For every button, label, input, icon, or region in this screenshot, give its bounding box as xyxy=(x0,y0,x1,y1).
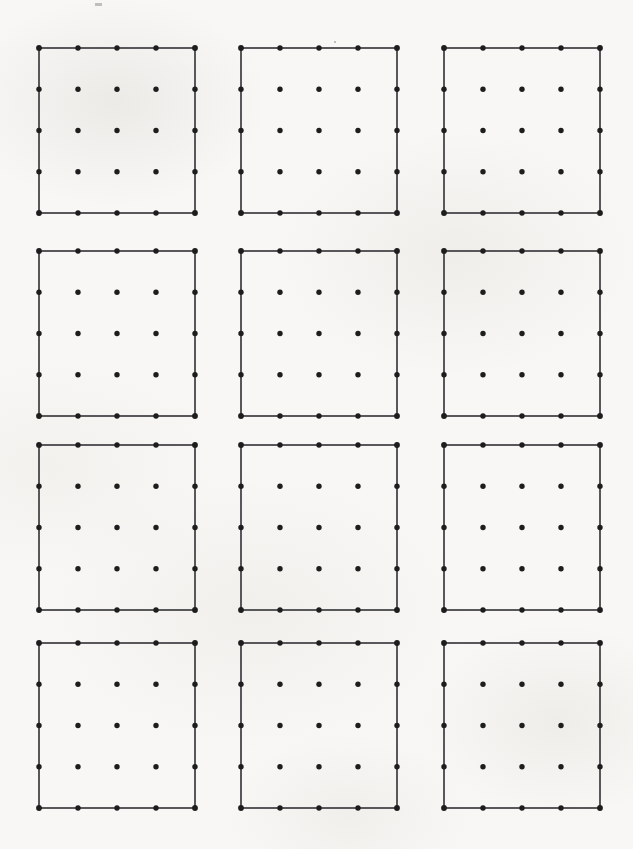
lattice-dot xyxy=(36,128,41,133)
lattice-dot xyxy=(192,210,198,216)
lattice-dot xyxy=(558,248,563,253)
lattice-dot xyxy=(114,128,119,133)
lattice-dot xyxy=(441,87,446,92)
lattice-dot xyxy=(355,372,360,377)
lattice-dot xyxy=(316,248,321,253)
lattice-dot xyxy=(277,764,282,769)
lattice-dot xyxy=(597,442,603,448)
lattice-dot xyxy=(192,372,197,377)
lattice-dot xyxy=(277,210,282,215)
lattice-dot xyxy=(153,682,158,687)
lattice-dot xyxy=(441,682,446,687)
lattice-dot xyxy=(238,87,243,92)
lattice-dot xyxy=(153,87,158,92)
lattice-dot xyxy=(394,764,399,769)
lattice-dot xyxy=(75,525,80,530)
lattice-dot xyxy=(316,372,321,377)
lattice-dot xyxy=(519,805,524,810)
lattice-dot xyxy=(558,372,563,377)
lattice-dot xyxy=(192,607,198,613)
lattice-dot xyxy=(192,566,197,571)
lattice-dot xyxy=(519,128,524,133)
lattice-dot xyxy=(355,413,360,418)
lattice-dot xyxy=(394,210,400,216)
lattice-dot xyxy=(36,413,42,419)
lattice-dot xyxy=(75,331,80,336)
lattice-dot xyxy=(480,805,485,810)
lattice-dot xyxy=(519,248,524,253)
lattice-dot xyxy=(277,442,282,447)
lattice-panel xyxy=(238,640,400,811)
lattice-dot xyxy=(394,331,399,336)
lattice-dot xyxy=(558,331,563,336)
lattice-dot xyxy=(277,372,282,377)
lattice-dot xyxy=(597,210,603,216)
lattice-dot xyxy=(316,442,321,447)
lattice-dot xyxy=(277,331,282,336)
lattice-dot xyxy=(36,169,41,174)
lattice-figure xyxy=(0,0,633,849)
lattice-dot xyxy=(316,805,321,810)
lattice-dot xyxy=(441,525,446,530)
lattice-dot xyxy=(597,248,603,254)
lattice-dot xyxy=(114,805,119,810)
lattice-dot xyxy=(277,169,282,174)
lattice-dot xyxy=(480,210,485,215)
lattice-dot xyxy=(394,682,399,687)
lattice-dot xyxy=(153,764,158,769)
lattice-dot xyxy=(558,566,563,571)
lattice-dot xyxy=(597,128,602,133)
lattice-dot xyxy=(238,607,244,613)
lattice-dot xyxy=(75,566,80,571)
lattice-dot xyxy=(355,607,360,612)
lattice-dot xyxy=(480,723,485,728)
lattice-dot xyxy=(597,45,603,51)
lattice-panel xyxy=(238,442,400,613)
lattice-dot xyxy=(480,682,485,687)
lattice-panel xyxy=(36,248,198,419)
lattice-dot xyxy=(153,525,158,530)
lattice-dot xyxy=(558,640,563,645)
lattice-dot xyxy=(75,45,80,50)
lattice-dot xyxy=(75,723,80,728)
lattice-dot xyxy=(238,372,243,377)
lattice-dot xyxy=(480,566,485,571)
lattice-dot xyxy=(238,169,243,174)
lattice-dot xyxy=(36,764,41,769)
lattice-dot xyxy=(36,723,41,728)
lattice-dot xyxy=(277,607,282,612)
lattice-dot xyxy=(75,764,80,769)
lattice-dot xyxy=(558,682,563,687)
lattice-dot xyxy=(394,805,400,811)
lattice-dot xyxy=(75,372,80,377)
lattice-dot xyxy=(480,290,485,295)
lattice-dot xyxy=(153,723,158,728)
lattice-dot xyxy=(355,128,360,133)
lattice-dot xyxy=(355,45,360,50)
lattice-dot xyxy=(441,764,446,769)
lattice-dot xyxy=(441,484,446,489)
lattice-dot xyxy=(394,169,399,174)
lattice-dot xyxy=(441,607,447,613)
lattice-dot xyxy=(597,290,602,295)
lattice-dot xyxy=(114,372,119,377)
lattice-dot xyxy=(394,442,400,448)
lattice-dot xyxy=(316,331,321,336)
lattice-dot xyxy=(394,45,400,51)
lattice-dot xyxy=(316,525,321,530)
lattice-dot xyxy=(355,87,360,92)
lattice-dot xyxy=(36,248,42,254)
stray-mark xyxy=(334,41,336,43)
lattice-dot xyxy=(114,413,119,418)
lattice-panel xyxy=(36,45,198,216)
lattice-panel xyxy=(238,45,400,216)
lattice-dot xyxy=(394,484,399,489)
lattice-dot xyxy=(441,248,447,254)
lattice-dot xyxy=(36,372,41,377)
lattice-dot xyxy=(519,87,524,92)
lattice-dot xyxy=(316,607,321,612)
lattice-dot xyxy=(36,607,42,613)
lattice-dot xyxy=(597,331,602,336)
lattice-dot xyxy=(238,413,244,419)
lattice-dot xyxy=(316,128,321,133)
